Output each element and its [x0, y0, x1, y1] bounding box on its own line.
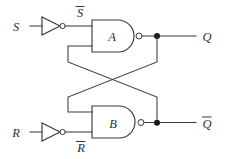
- inverter-r-triangle: [42, 123, 60, 141]
- gate-b-output-bubble: [138, 120, 144, 126]
- label-input-s: S: [13, 20, 20, 34]
- circuit-canvas: S S A Q B Q R R: [0, 0, 225, 159]
- label-gate-a: A: [107, 30, 116, 44]
- label-output-q: Q: [202, 30, 211, 44]
- label-output-q-bar: Q: [202, 117, 211, 131]
- feedback-wire-q-to-gate-b: [68, 36, 157, 112]
- label-s-bar: S: [77, 6, 84, 20]
- feedback-wire-qbar-to-gate-a: [68, 46, 157, 123]
- sr-latch-figure: S S A Q B Q R R: [0, 0, 225, 159]
- inverter-s-bubble: [60, 23, 65, 28]
- label-input-r: R: [11, 126, 20, 140]
- label-r-bar: R: [76, 141, 85, 155]
- inverter-r-bubble: [60, 129, 65, 134]
- gate-a-output-bubble: [136, 33, 142, 39]
- junction-qbar-dot: [154, 120, 160, 126]
- label-gate-b: B: [109, 117, 117, 131]
- inverter-s-triangle: [42, 17, 60, 35]
